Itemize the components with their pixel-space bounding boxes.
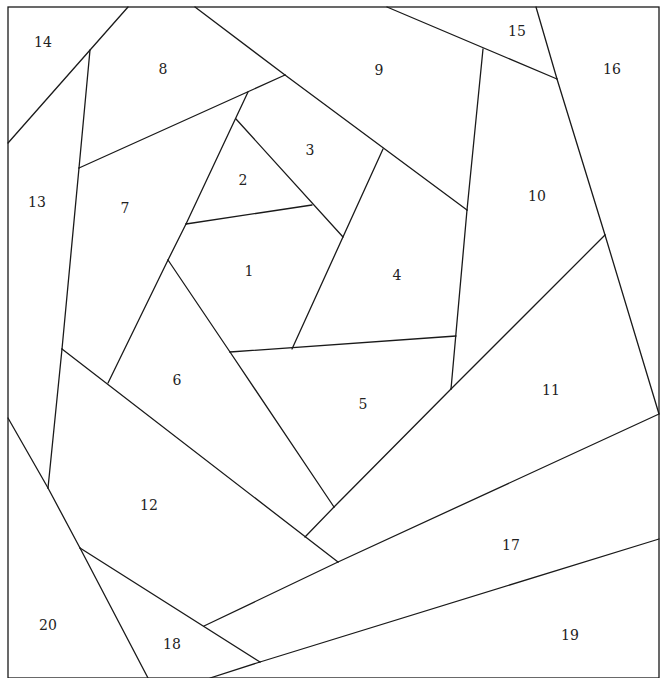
seam-line [62, 349, 338, 562]
seam-line [260, 539, 659, 662]
seam-line [108, 260, 168, 383]
piece-label-7: 7 [121, 200, 130, 216]
piece-label-19: 19 [561, 627, 579, 643]
seam-line [8, 418, 48, 488]
quilt-block-diagram: 1234567891011121314151617181920 [0, 0, 662, 678]
seam-line [451, 235, 605, 389]
seam-line [186, 92, 248, 224]
seam-line [79, 75, 285, 168]
piece-label-18: 18 [163, 636, 181, 652]
piece-label-8: 8 [159, 61, 168, 77]
seam-line [557, 79, 605, 235]
piece-label-6: 6 [173, 372, 182, 388]
piece-label-2: 2 [239, 172, 248, 188]
seam-line [230, 336, 456, 352]
seam-line [236, 119, 343, 237]
seam-line [48, 488, 80, 548]
piece-label-15: 15 [508, 23, 526, 39]
piece-label-12: 12 [140, 497, 158, 513]
seam-line [79, 50, 90, 168]
seam-line [204, 562, 338, 626]
piece-label-17: 17 [502, 537, 520, 553]
block-frame [8, 7, 659, 678]
piece-label-10: 10 [528, 188, 546, 204]
seam-line [451, 210, 467, 389]
piece-label-4: 4 [393, 267, 402, 283]
seam-line [62, 168, 79, 349]
piece-label-16: 16 [603, 61, 621, 77]
seam-line [168, 224, 186, 260]
seam-line [195, 7, 285, 75]
piece-label-9: 9 [375, 62, 384, 78]
piece-label-14: 14 [34, 34, 52, 50]
seam-line [387, 7, 557, 79]
seam-line [338, 414, 659, 562]
seam-line [536, 7, 557, 79]
piece-label-13: 13 [28, 194, 46, 210]
piece-label-20: 20 [39, 617, 57, 633]
seam-line [80, 548, 148, 678]
seam-line [605, 235, 659, 414]
piece-label-1: 1 [245, 263, 254, 279]
seam-line [168, 260, 230, 352]
piece-number-labels: 1234567891011121314151617181920 [28, 23, 621, 652]
piece-label-5: 5 [359, 396, 368, 412]
seam-line [186, 205, 312, 224]
seam-line [230, 352, 334, 507]
seam-line [48, 349, 62, 488]
seam-line [210, 662, 260, 678]
seam-line [8, 7, 128, 143]
piece-label-3: 3 [306, 142, 315, 158]
seam-line [292, 149, 383, 349]
piece-seam-lines [8, 7, 659, 678]
seam-line [467, 49, 483, 210]
piece-label-11: 11 [542, 382, 560, 398]
seam-line [305, 507, 334, 537]
seam-line [334, 389, 451, 507]
